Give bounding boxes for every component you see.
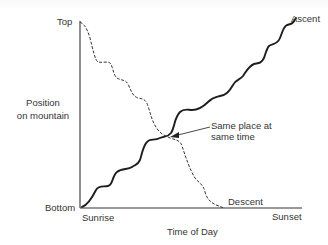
annotation-line1: Same place at	[211, 120, 272, 131]
x-tick-sunrise: Sunrise	[82, 212, 114, 223]
annotation-leader	[178, 127, 210, 135]
ascent-curve	[82, 18, 296, 207]
annotation-line2: same time	[211, 131, 255, 142]
y-tick-top: Top	[57, 16, 72, 27]
y-axis-title-line2: on mountain	[8, 110, 78, 121]
ascent-label: Ascent	[291, 13, 320, 24]
x-axis-title: Time of Day	[167, 226, 218, 237]
y-tick-bottom: Bottom	[45, 202, 75, 213]
descent-curve	[80, 22, 224, 208]
descent-label: Descent	[228, 196, 263, 207]
x-tick-sunset: Sunset	[272, 211, 302, 222]
y-axis-title-line1: Position	[8, 97, 78, 108]
